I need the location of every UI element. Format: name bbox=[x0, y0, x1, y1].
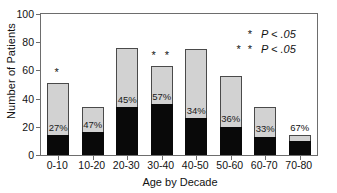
y-axis-tick-label: 20 bbox=[12, 122, 34, 133]
x-axis-tick-label: 50-60 bbox=[216, 159, 243, 171]
bar-20-30: 45% bbox=[116, 48, 138, 155]
bar-subset-10-20 bbox=[82, 132, 104, 155]
chart-figure: Number of Patients Age by Decade 0204060… bbox=[0, 0, 337, 193]
bar-subset-0-10 bbox=[47, 135, 69, 155]
y-axis-tick-mark bbox=[36, 127, 41, 128]
x-axis-tick-label: 0-10 bbox=[47, 159, 68, 171]
y-axis-tick-label: 40 bbox=[12, 93, 34, 104]
bar-50-60: 36% bbox=[220, 76, 242, 155]
y-axis-tick-label: 60 bbox=[12, 65, 34, 76]
y-axis-tick-mark bbox=[36, 14, 41, 15]
chart-legend: * P < .05 * * P < .05 bbox=[228, 27, 296, 57]
bar-data-label: 27% bbox=[48, 123, 68, 133]
bar-data-label: 33% bbox=[255, 124, 275, 134]
y-axis-tick-mark bbox=[36, 99, 41, 100]
y-axis-tick-mark bbox=[36, 42, 41, 43]
bar-data-label: 36% bbox=[221, 114, 241, 124]
significance-marker-0-10: * bbox=[55, 67, 62, 78]
y-axis-tick-label: 80 bbox=[12, 37, 34, 48]
y-axis-tick-label: 0 bbox=[12, 150, 34, 161]
bar-40-50: 34% bbox=[185, 49, 207, 155]
y-axis-tick-label: 100 bbox=[12, 9, 34, 20]
x-axis-tick-label: 40-50 bbox=[182, 159, 209, 171]
bar-30-40: 57% bbox=[151, 66, 173, 155]
bar-data-label: 34% bbox=[186, 106, 206, 116]
bar-subset-60-70 bbox=[254, 137, 276, 155]
y-axis-tick-mark bbox=[36, 155, 41, 156]
bar-subset-20-30 bbox=[116, 107, 138, 155]
y-axis-tick-mark bbox=[36, 70, 41, 71]
x-axis-tick-label: 60-70 bbox=[251, 159, 278, 171]
x-axis-tick-label: 30-40 bbox=[147, 159, 174, 171]
x-axis-label: Age by Decade bbox=[40, 176, 320, 188]
bar-data-label: 57% bbox=[152, 92, 172, 102]
significance-marker-30-40: * * bbox=[151, 50, 172, 61]
legend-item: * * P < .05 bbox=[228, 42, 296, 57]
bar-data-label: 45% bbox=[117, 95, 137, 105]
legend-symbol: * * bbox=[228, 42, 261, 57]
x-axis-tick-label: 10-20 bbox=[78, 159, 105, 171]
bar-data-label: 47% bbox=[83, 120, 103, 130]
x-axis-tick-label: 20-30 bbox=[113, 159, 140, 171]
bar-subset-40-50 bbox=[185, 118, 207, 155]
bar-subset-70-80 bbox=[289, 141, 311, 155]
bar-subset-50-60 bbox=[220, 127, 242, 155]
legend-symbol: * bbox=[228, 27, 261, 42]
bar-70-80 bbox=[289, 135, 311, 155]
legend-item: * P < .05 bbox=[228, 27, 296, 42]
bar-subset-30-40 bbox=[151, 104, 173, 155]
x-axis-tick-label: 70-80 bbox=[285, 159, 312, 171]
legend-label: P < .05 bbox=[261, 27, 296, 42]
bar-data-label: 67% bbox=[283, 123, 318, 133]
bar-0-10: 27% bbox=[47, 83, 69, 155]
bar-10-20: 47% bbox=[82, 107, 104, 155]
legend-label: P < .05 bbox=[261, 42, 296, 57]
bar-60-70: 33% bbox=[254, 107, 276, 155]
